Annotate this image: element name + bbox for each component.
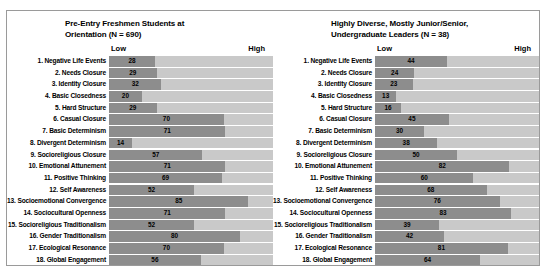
bar-row-label: 8. Divergent Determinism (7, 138, 109, 149)
bar-row-label: 4. Basic Closedness (7, 91, 109, 102)
bar-track: 42 (375, 231, 539, 242)
bar-value-label: 76 (434, 196, 441, 207)
bar-value-label: 20 (122, 91, 129, 102)
bar-value-label: 28 (128, 56, 135, 67)
bar-row: 13. Socioemotional Convergence76 (273, 196, 539, 207)
bar-track: 52 (109, 220, 273, 231)
bar-row-label: 17. Ecological Resonance (7, 243, 109, 254)
bar-row: 3. Identity Closure23 (273, 79, 539, 90)
axis-low-label-left: Low (111, 44, 126, 53)
bar-row: 11. Positive Thinking60 (273, 173, 539, 184)
figure-page: Pre-Entry Freshmen Students at Orientati… (0, 0, 546, 272)
bar-row-label: 7. Basic Determinism (7, 126, 109, 137)
bar-row-label: 10. Emotional Attunement (273, 161, 375, 172)
bar-row-label: 5. Hard Structure (273, 103, 375, 114)
bar-row: 1. Negative Life Events28 (7, 56, 273, 67)
bar-row: 7. Basic Determinism30 (273, 126, 539, 137)
bar-row: 17. Ecological Resonance70 (7, 243, 273, 254)
bar-row: 13. Socioemotional Convergence85 (7, 196, 273, 207)
bar-row: 2. Needs Closure29 (7, 68, 273, 79)
bar-row: 12. Self Awareness68 (273, 185, 539, 196)
bar-row: 15. Socioreligious Traditionalism52 (7, 220, 273, 231)
bar-value-label: 32 (132, 79, 139, 90)
bar-track: 44 (375, 56, 539, 67)
bar-row: 15. Socioreligious Traditionalism39 (273, 220, 539, 231)
bar-row-label: 17. Ecological Resonance (273, 243, 375, 254)
bar-row-label: 15. Socioreligious Traditionalism (273, 220, 375, 231)
bar-value-label: 14 (117, 138, 124, 149)
bar-row-label: 15. Socioreligious Traditionalism (7, 220, 109, 231)
bar-row: 4. Basic Closedness13 (273, 91, 539, 102)
bar-value-label: 30 (396, 126, 403, 137)
bar-row-label: 13. Socioemotional Convergence (7, 196, 109, 207)
bar-track: 16 (375, 103, 539, 114)
bar-row: 1. Negative Life Events44 (273, 56, 539, 67)
bar-track: 57 (109, 150, 273, 161)
bar-track: 82 (375, 161, 539, 172)
bar-row-label: 14. Sociocultural Openness (273, 208, 375, 219)
bar-row-label: 5. Hard Structure (7, 103, 109, 114)
bar-row-label: 11. Positive Thinking (7, 173, 109, 184)
bar-row: 11. Positive Thinking69 (7, 173, 273, 184)
bar-row-label: 12. Self Awareness (273, 185, 375, 196)
bar-row-label: 13. Socioemotional Convergence (273, 196, 375, 207)
bar-value-label: 29 (129, 103, 136, 114)
bar-row: 12. Self Awareness52 (7, 185, 273, 196)
bar-track: 52 (109, 185, 273, 196)
bar-value-label: 64 (424, 255, 431, 266)
axis-low-label-right: Low (377, 44, 392, 53)
bar-value-label: 71 (164, 126, 171, 137)
bar-value-label: 45 (408, 114, 415, 125)
bar-row-label: 18. Global Engagement (7, 255, 109, 266)
bar-track: 68 (375, 185, 539, 196)
bar-track: 29 (109, 103, 273, 114)
bar-track: 80 (109, 231, 273, 242)
bar-row: 4. Basic Closedness20 (7, 91, 273, 102)
bar-value-label: 69 (162, 173, 169, 184)
bar-track: 71 (109, 126, 273, 137)
bar-value-label: 16 (385, 103, 392, 114)
bar-value-label: 56 (151, 255, 158, 266)
bar-row: 16. Gender Traditionalism80 (7, 231, 273, 242)
bar-track: 71 (109, 208, 273, 219)
bar-row: 5. Hard Structure29 (7, 103, 273, 114)
bar-row: 18. Global Engagement56 (7, 255, 273, 266)
bar-value-label: 23 (390, 79, 397, 90)
chart-container: Pre-Entry Freshmen Students at Orientati… (7, 11, 539, 265)
bar-value-label: 38 (403, 138, 410, 149)
chart-title-left: Pre-Entry Freshmen Students at Orientati… (65, 18, 265, 40)
bar-track: 14 (109, 138, 273, 149)
bar-track: 70 (109, 114, 273, 125)
bar-track: 71 (109, 161, 273, 172)
bar-track: 29 (109, 68, 273, 79)
bar-track: 32 (109, 79, 273, 90)
bar-track: 85 (109, 196, 273, 207)
bar-track: 64 (375, 255, 539, 266)
bar-row-label: 16. Gender Traditionalism (7, 231, 109, 242)
bar-row: 10. Emotional Attunement71 (7, 161, 273, 172)
bar-value-label: 80 (171, 231, 178, 242)
bar-track: 70 (109, 243, 273, 254)
bar-row: 10. Emotional Attunement82 (273, 161, 539, 172)
bar-row: 7. Basic Determinism71 (7, 126, 273, 137)
bar-value-label: 52 (148, 185, 155, 196)
bar-row: 5. Hard Structure16 (273, 103, 539, 114)
bar-track: 24 (375, 68, 539, 79)
bar-value-label: 29 (129, 68, 136, 79)
bar-row: 8. Divergent Determinism38 (273, 138, 539, 149)
bar-row: 2. Needs Closure24 (273, 68, 539, 79)
bar-value-label: 68 (427, 185, 434, 196)
bar-track: 60 (375, 173, 539, 184)
bar-track: 20 (109, 91, 273, 102)
bar-row-label: 2. Needs Closure (273, 68, 375, 79)
bar-track: 23 (375, 79, 539, 90)
bar-track: 38 (375, 138, 539, 149)
chart-title-right-line2: Undergraduate Leaders (N = 38) (331, 29, 531, 40)
bar-value-label: 71 (164, 161, 171, 172)
axis-row-left: Low High (7, 44, 273, 55)
chart-title-left-line1: Pre-Entry Freshmen Students at (65, 18, 265, 29)
bar-row: 18. Global Engagement64 (273, 255, 539, 266)
chart-title-right-line1: Highly Diverse, Mostly Junior/Senior, (331, 18, 531, 29)
bar-row-label: 1. Negative Life Events (273, 56, 375, 67)
chart-title-right: Highly Diverse, Mostly Junior/Senior, Un… (331, 18, 531, 40)
